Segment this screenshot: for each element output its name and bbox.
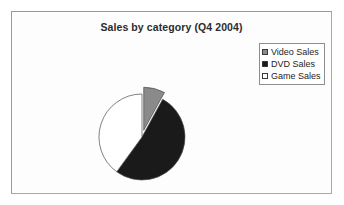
chart-frame: Sales by category (Q4 2004) Video Sales … bbox=[11, 11, 332, 194]
black-swatch-icon bbox=[262, 61, 268, 67]
legend-item-dvd-sales[interactable]: DVD Sales bbox=[262, 58, 321, 70]
legend-item-video-sales[interactable]: Video Sales bbox=[262, 46, 321, 58]
gray-swatch-icon bbox=[262, 49, 268, 55]
legend-label-game-sales: Game Sales bbox=[271, 70, 321, 82]
legend-label-dvd-sales: DVD Sales bbox=[271, 58, 315, 70]
pie-chart-svg bbox=[90, 84, 194, 188]
pie-chart bbox=[90, 84, 194, 188]
chart-legend: Video Sales DVD Sales Game Sales bbox=[259, 43, 325, 85]
legend-label-video-sales: Video Sales bbox=[271, 46, 319, 58]
legend-item-game-sales[interactable]: Game Sales bbox=[262, 70, 321, 82]
chart-title: Sales by category (Q4 2004) bbox=[12, 21, 331, 33]
white-swatch-icon bbox=[262, 73, 268, 79]
